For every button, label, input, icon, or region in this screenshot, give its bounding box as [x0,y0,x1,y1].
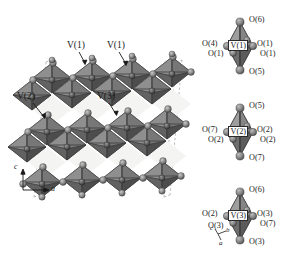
poly-v1-label-o6: O(6) [249,16,264,24]
main-label-v1-left: V(1) [67,41,85,51]
poly-v3-label-o3-bottom: O(3) [249,238,264,246]
poly-v2-label-o2-lower-left: O(2) [208,136,223,144]
poly-v2-label-o2-upper-right: O(2) [257,126,272,134]
poly-v1-center-label: V(1) [228,40,248,51]
poly-v3-label-o6: O(6) [249,186,264,194]
main-label-v1-right: V(1) [107,41,125,51]
poly-v1-label-o1-lower-left: O(1) [208,50,223,58]
poly-v2-label-o7-left: O(7) [202,126,217,134]
poly-v1-label-o5: O(5) [249,68,264,76]
poly-v1-label-o4: O(4) [202,40,217,48]
main-label-v2: V(2) [17,92,35,102]
poly-v1-label-o1-upper-right: O(1) [257,40,272,48]
poly-v2-center-label: V(2) [228,126,248,137]
main-axis-label-a: a [51,185,55,193]
main-label-v3: V(3) [97,92,115,102]
main-axis-label-c: c [14,163,18,171]
poly-v3-label-o2: O(2) [202,210,217,218]
poly-v3-label-o7: O(7) [260,220,275,228]
poly-v3-center-label: V(3) [228,210,248,221]
poly-v2-label-o2-lower-right: O(2) [260,136,275,144]
poly-v2-label-o7-bottom: O(7) [249,154,264,162]
poly-axis-label-c: c [210,225,213,232]
poly-axis-label-a: a [219,240,223,247]
poly-v2-label-o5: O(5) [249,102,264,110]
poly-v3-label-o3-upper-right: O(3) [257,210,272,218]
poly-axis-label-b: b [226,227,230,234]
poly-v1-label-o1-lower-right: O(1) [260,50,275,58]
